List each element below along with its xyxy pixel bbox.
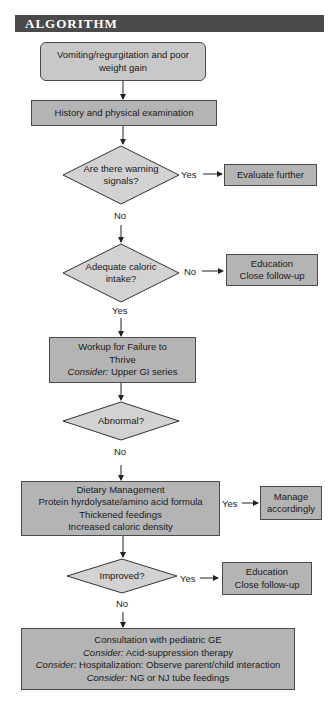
- evaluate-further-node: Evaluate further: [224, 164, 317, 186]
- consider-label: Consider:: [87, 672, 128, 683]
- node-text: Are there warning: [84, 163, 159, 176]
- workup-ftt-node: Workup for Failure to Thrive Consider: U…: [49, 337, 196, 383]
- improved-decision: Improved?: [66, 558, 178, 594]
- node-text: Thrive: [109, 354, 135, 367]
- node-text: Workup for Failure to: [78, 341, 167, 354]
- consider-line: Consider: NG or NJ tube feedings: [87, 672, 230, 685]
- consider-line: Consider: Acid-suppression therapy: [83, 647, 233, 660]
- node-text: Close follow-up: [235, 579, 300, 592]
- node-text: Evaluate further: [237, 169, 304, 182]
- node-text: Increased caloric density: [68, 521, 173, 534]
- warning-signals-decision: Are there warning signals?: [62, 145, 180, 205]
- node-text: Protein hyrdolysate/amino acid formula: [38, 496, 202, 509]
- edge-label-no: No: [114, 210, 126, 221]
- node-text: Education: [251, 258, 293, 271]
- education-node-1: Education Close follow-up: [226, 254, 318, 286]
- node-text: signals?: [104, 175, 139, 188]
- edge-label-yes: Yes: [222, 498, 238, 509]
- dietary-management-node: Dietary Management Protein hyrdolysate/a…: [21, 481, 220, 536]
- node-text: accordingly: [267, 503, 315, 516]
- education-node-2: Education Close follow-up: [222, 562, 312, 595]
- edge-label-no: No: [116, 598, 128, 609]
- node-text: intake?: [106, 273, 137, 286]
- node-text: History and physical examination: [55, 107, 194, 120]
- consider-text: NG or NJ tube feedings: [127, 672, 229, 683]
- abnormal-decision: Abnormal?: [62, 401, 180, 441]
- edge-label-no: No: [184, 266, 196, 277]
- edge-label-no: No: [114, 446, 126, 457]
- consider-label: Consider:: [83, 647, 124, 658]
- edge-label-yes: Yes: [181, 169, 197, 180]
- node-text: Abnormal?: [98, 415, 144, 428]
- consider-label: Consider:: [68, 366, 109, 377]
- edge-label-yes: Yes: [112, 305, 128, 316]
- history-node: History and physical examination: [31, 100, 217, 126]
- node-text: Adequate caloric: [86, 261, 157, 274]
- node-text: Thickened feedings: [79, 509, 161, 522]
- consider-line: Consider: Hospitalization: Observe paren…: [36, 659, 281, 672]
- consider-line: Consider: Upper GI series: [68, 366, 178, 379]
- consider-label: Consider:: [36, 659, 77, 670]
- edge-label-yes: Yes: [180, 573, 196, 584]
- node-text: Consultation with pediatric GE: [94, 634, 221, 647]
- node-text: Dietary Management: [76, 484, 164, 497]
- consider-text: Hospitalization: Observe parent/child in…: [76, 659, 280, 670]
- node-text: Manage: [274, 491, 308, 504]
- consider-text: Upper GI series: [108, 366, 177, 377]
- node-text: Close follow-up: [240, 270, 305, 283]
- adequate-caloric-intake-decision: Adequate caloric intake?: [62, 243, 180, 303]
- consultation-node: Consultation with pediatric GE Consider:…: [21, 628, 295, 690]
- node-text: weight gain: [99, 62, 147, 75]
- start-node: Vomiting/regurgitation and poor weight g…: [40, 42, 206, 81]
- node-text: Vomiting/regurgitation and poor: [57, 49, 189, 62]
- manage-accordingly-node: Manage accordingly: [260, 486, 322, 520]
- consider-text: Acid-suppression therapy: [124, 647, 233, 658]
- node-text: Improved?: [100, 570, 145, 583]
- node-text: Education: [246, 566, 288, 579]
